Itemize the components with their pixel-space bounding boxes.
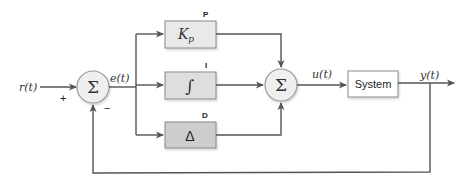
input-summing-junction: Σ <box>77 71 109 103</box>
derivative-block: Δ <box>165 122 216 148</box>
integral-block: ∫ <box>165 72 216 99</box>
delta-icon: Δ <box>185 128 194 144</box>
controller-summing-junction: Σ <box>265 69 297 101</box>
signal-label-y: y(t) <box>419 69 439 82</box>
plus-sign: + <box>60 92 66 104</box>
sigma-icon: Σ <box>87 77 99 97</box>
pid-block-diagram: r(t) + Σ − e(t) Kp P ∫ I Δ D Σ u <box>0 0 470 185</box>
system-block: System <box>348 71 398 97</box>
minus-sign: − <box>104 102 110 114</box>
integral-icon: ∫ <box>186 76 195 96</box>
signal-label-u: u(t) <box>312 68 332 81</box>
system-label: System <box>355 78 392 90</box>
block-tag-i: I <box>205 61 207 70</box>
wire-p-to-sum <box>216 34 281 67</box>
signal-label-e: e(t) <box>110 72 130 85</box>
block-tag-p: P <box>203 10 209 19</box>
signal-label-r: r(t) <box>19 81 37 94</box>
block-tag-d: D <box>202 111 208 120</box>
proportional-block: Kp <box>165 21 216 48</box>
wire-d-to-sum <box>216 103 281 135</box>
sigma-icon: Σ <box>275 75 287 95</box>
